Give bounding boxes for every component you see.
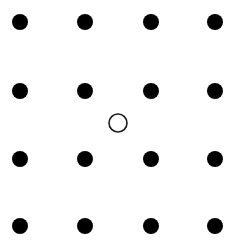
filled-dot (207, 151, 223, 167)
filled-dot (77, 151, 93, 167)
filled-dot (143, 83, 159, 99)
filled-dot (12, 14, 28, 30)
filled-dot (143, 218, 159, 234)
filled-dot (77, 83, 93, 99)
dot-array-svg (0, 0, 237, 244)
filled-dot (12, 218, 28, 234)
open-circle (109, 114, 127, 132)
filled-dot (77, 218, 93, 234)
filled-dot (207, 218, 223, 234)
filled-dot (207, 83, 223, 99)
filled-dot (207, 14, 223, 30)
filled-dot (143, 14, 159, 30)
filled-dot (12, 151, 28, 167)
filled-dot (143, 151, 159, 167)
filled-dot (77, 14, 93, 30)
stimulus-canvas (0, 0, 237, 244)
filled-dot (12, 83, 28, 99)
open-circle-group (109, 114, 127, 132)
